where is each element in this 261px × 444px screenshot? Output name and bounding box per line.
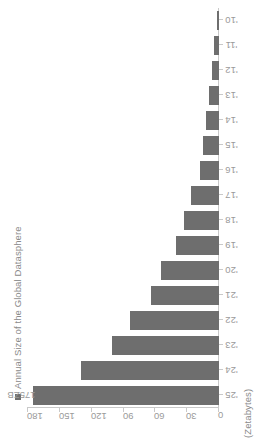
plot-area: '10'11'12'13'14'15'16'17'18'19'20'21'22'… xyxy=(28,8,219,408)
value-tick: 120 xyxy=(91,407,92,412)
bar-slot: '17 xyxy=(28,183,219,208)
category-tick xyxy=(219,195,223,196)
bar[interactable] xyxy=(191,186,219,205)
bar[interactable] xyxy=(130,311,219,330)
bar[interactable] xyxy=(184,211,219,230)
category-tick-label: '11 xyxy=(226,40,238,51)
bar-slot: '16 xyxy=(28,158,219,183)
category-tick-label: '16 xyxy=(225,165,237,176)
bar[interactable] xyxy=(151,286,219,305)
bar[interactable] xyxy=(209,86,219,105)
value-tick: 150 xyxy=(59,407,60,412)
chart-figure: Annual Size of the Global Datasphere (Ze… xyxy=(0,0,261,444)
value-axis-unit-title: (Zetabytes) xyxy=(242,389,253,438)
value-tick-label: 0 xyxy=(218,411,223,422)
bar-slot: '23 xyxy=(28,333,219,358)
category-tick xyxy=(219,220,223,221)
bar-slot: '14 xyxy=(28,108,219,133)
category-tick xyxy=(219,245,223,246)
category-tick-label: '24 xyxy=(225,365,237,376)
bar[interactable] xyxy=(214,36,219,55)
category-tick-label: '22 xyxy=(225,315,237,326)
bar[interactable] xyxy=(217,11,219,30)
category-tick xyxy=(219,120,223,121)
bar-slot: '22 xyxy=(28,308,219,333)
bar-slot: '15 xyxy=(28,133,219,158)
value-tick-label: 180 xyxy=(27,411,43,422)
bar-slot: '25175ZB xyxy=(28,383,219,408)
category-tick xyxy=(219,320,223,321)
bar[interactable] xyxy=(112,336,219,355)
category-tick xyxy=(219,70,223,71)
category-tick xyxy=(219,295,223,296)
value-tick-label: 120 xyxy=(91,411,107,422)
value-tick-label: 60 xyxy=(154,411,165,422)
bar[interactable] xyxy=(206,111,219,130)
bar-slot: '13 xyxy=(28,83,219,108)
bar-value-label: 175ZB xyxy=(8,390,36,401)
category-tick xyxy=(219,20,223,21)
value-tick-label: 90 xyxy=(123,411,134,422)
value-tick: 60 xyxy=(154,407,155,412)
category-tick xyxy=(219,370,223,371)
category-tick xyxy=(219,45,223,46)
rotated-figure-wrapper: Annual Size of the Global Datasphere (Ze… xyxy=(0,0,261,444)
value-tick: 180 xyxy=(27,407,28,412)
bar-slot: '12 xyxy=(28,58,219,83)
category-tick-label: '19 xyxy=(225,240,237,251)
bar[interactable] xyxy=(200,161,219,180)
bar-slot: '20 xyxy=(28,258,219,283)
category-tick xyxy=(219,345,223,346)
category-tick xyxy=(219,395,223,396)
category-tick-label: '21 xyxy=(225,290,237,301)
category-tick-label: '15 xyxy=(225,140,237,151)
bar[interactable] xyxy=(203,136,219,155)
category-tick-label: '25 xyxy=(225,390,237,401)
value-tick: 30 xyxy=(186,407,187,412)
category-tick xyxy=(219,145,223,146)
category-tick-label: '20 xyxy=(225,265,237,276)
bar-slot: '21 xyxy=(28,283,219,308)
bar[interactable] xyxy=(33,386,219,405)
value-tick: 90 xyxy=(123,407,124,412)
chart-legend: Annual Size of the Global Datasphere xyxy=(12,226,23,400)
bar-slot: '24 xyxy=(28,358,219,383)
category-tick-label: '14 xyxy=(225,115,237,126)
category-tick-label: '18 xyxy=(225,215,237,226)
category-tick xyxy=(219,95,223,96)
bar-slot: '19 xyxy=(28,233,219,258)
bar[interactable] xyxy=(176,236,220,255)
category-tick-label: '10 xyxy=(225,15,237,26)
bar[interactable] xyxy=(212,61,219,80)
legend-label: Annual Size of the Global Datasphere xyxy=(12,226,23,389)
category-tick-label: '23 xyxy=(225,340,237,351)
bar-slot: '18 xyxy=(28,208,219,233)
bar-slot: '10 xyxy=(28,8,219,33)
bar[interactable] xyxy=(161,261,219,280)
value-tick-label: 30 xyxy=(186,411,197,422)
category-tick-label: '17 xyxy=(225,190,237,201)
bar[interactable] xyxy=(81,361,219,380)
category-tick xyxy=(219,170,223,171)
bar-series: '10'11'12'13'14'15'16'17'18'19'20'21'22'… xyxy=(28,8,219,408)
category-tick-label: '12 xyxy=(225,65,237,76)
value-tick: 0 xyxy=(218,407,219,412)
category-tick xyxy=(219,270,223,271)
bar-slot: '11 xyxy=(28,33,219,58)
category-tick-label: '13 xyxy=(225,90,237,101)
value-tick-label: 150 xyxy=(59,411,75,422)
